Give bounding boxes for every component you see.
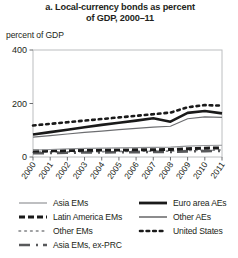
y-axis-tick-label: 400 — [12, 45, 27, 55]
legend-item-asia-ems-ex-prc: Asia EMs, ex-PRC — [18, 238, 138, 252]
legend-label-euro-area-aes: Euro area AEs — [173, 198, 226, 208]
x-axis-tick-label: 2008 — [156, 160, 175, 181]
x-axis-tick-label: 2006 — [122, 160, 141, 181]
legend-label-asia-ems: Asia EMs — [53, 198, 88, 208]
plot-area: 0200400200020012002200320042005200620072… — [0, 0, 238, 196]
legend-swatch-latin-america-ems — [18, 211, 48, 223]
y-axis-tick-label: 200 — [12, 99, 27, 109]
chart-figure: a. Local-currency bonds as percent of GD… — [0, 0, 238, 258]
legend-item-asia-ems: Asia EMs — [18, 196, 138, 210]
legend-swatch-other-ems — [18, 225, 48, 237]
x-axis-tick-label: 2007 — [139, 160, 158, 181]
x-axis-tick-label: 2001 — [36, 160, 55, 181]
legend-label-united-states: United States — [173, 226, 223, 236]
legend-item-other-aes: Other AEs — [138, 210, 238, 224]
x-axis-tick-label: 2003 — [71, 160, 90, 181]
legend-label-other-ems: Other EMs — [53, 226, 93, 236]
legend-item-euro-area-aes: Euro area AEs — [138, 196, 238, 210]
legend-swatch-asia-ems-ex-prc — [18, 239, 48, 251]
x-axis-tick-label: 2005 — [105, 160, 124, 181]
x-axis-tick-label: 2011 — [208, 160, 227, 181]
legend-swatch-euro-area-aes — [138, 197, 168, 209]
y-axis-tick-label: 0 — [22, 152, 27, 162]
legend-column-right: Euro area AEs Other AEs United States — [138, 196, 238, 238]
plot-frame — [33, 50, 222, 157]
x-axis-tick-label: 2002 — [53, 160, 72, 181]
legend-item-latin-america-ems: Latin America EMs — [18, 210, 138, 224]
x-axis-tick-label: 2010 — [191, 160, 210, 181]
legend-label-latin-america-ems: Latin America EMs — [53, 212, 122, 222]
legend-column-left: Asia EMs Latin America EMs Other EMs Asi… — [18, 196, 138, 252]
legend-swatch-asia-ems — [18, 197, 48, 209]
x-axis-tick-label: 2009 — [174, 160, 193, 181]
x-axis-tick-label: 2004 — [88, 160, 107, 181]
x-axis-tick-label: 2000 — [19, 160, 38, 181]
series-line-other-aes — [33, 117, 222, 137]
legend-swatch-other-aes — [138, 211, 168, 223]
legend-label-asia-ems-ex-prc: Asia EMs, ex-PRC — [53, 240, 122, 250]
legend-label-other-aes: Other AEs — [173, 212, 211, 222]
legend-swatch-united-states — [138, 225, 168, 237]
legend-item-united-states: United States — [138, 224, 238, 238]
chart-legend: Asia EMs Latin America EMs Other EMs Asi… — [0, 196, 238, 258]
legend-item-other-ems: Other EMs — [18, 224, 138, 238]
